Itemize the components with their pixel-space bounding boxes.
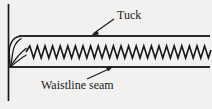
tuck-leader-line [94, 19, 115, 34]
tuck-diagram-figure: Tuck Waistline seam [0, 0, 212, 109]
zigzag-stitch-line [26, 46, 211, 58]
diagram-canvas [0, 0, 212, 109]
tuck-label: Tuck [117, 9, 141, 21]
waistline-seam-label: Waistline seam [41, 79, 114, 91]
